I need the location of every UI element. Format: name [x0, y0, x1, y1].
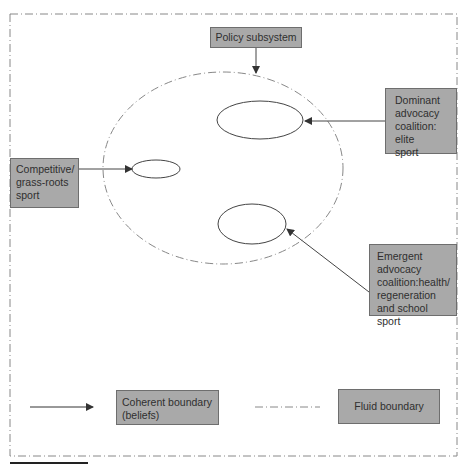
legend-coherent-box: Coherent boundary (beliefs) [116, 390, 219, 425]
competitive-sport-label: Competitive/ grass-roots sport [16, 163, 76, 202]
policy-subsystem-label: Policy subsystem [211, 28, 301, 47]
dominant-coalition-box: Dominant advocacy coalition: elite sport [385, 88, 457, 154]
dominant-coalition-label: Dominant advocacy coalition: elite sport [395, 94, 454, 159]
left-oval [132, 160, 180, 178]
top-oval [217, 101, 303, 139]
caption-bar [10, 462, 88, 464]
emergent-coalition-label: Emergent advocacy coalition:health/ rege… [377, 250, 454, 328]
competitive-sport-box: Competitive/ grass-roots sport [10, 158, 79, 208]
bottom-oval [218, 204, 286, 244]
legend-fluid-label: Fluid boundary [339, 390, 439, 423]
legend-fluid-box: Fluid boundary [338, 389, 440, 424]
emergent-arrow [287, 229, 369, 292]
legend-coherent-label: Coherent boundary (beliefs) [122, 396, 216, 422]
emergent-coalition-box: Emergent advocacy coalition:health/ rege… [369, 244, 457, 316]
policy-subsystem-box: Policy subsystem [210, 27, 302, 48]
